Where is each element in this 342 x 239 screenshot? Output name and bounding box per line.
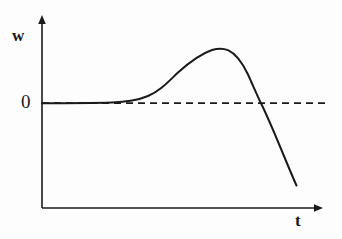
zero-tick-label: 0 bbox=[21, 92, 31, 111]
horizontal-axis-arrowhead bbox=[314, 204, 323, 212]
horizontal-axis bbox=[42, 204, 323, 212]
y-axis-label: w bbox=[12, 27, 24, 44]
figure-canvas: w 0 t bbox=[0, 0, 342, 239]
response-curve bbox=[42, 49, 297, 186]
vertical-axis-arrowhead bbox=[38, 15, 46, 24]
x-axis-label: t bbox=[295, 212, 301, 229]
vertical-axis bbox=[38, 15, 46, 208]
plot-area bbox=[0, 0, 342, 239]
